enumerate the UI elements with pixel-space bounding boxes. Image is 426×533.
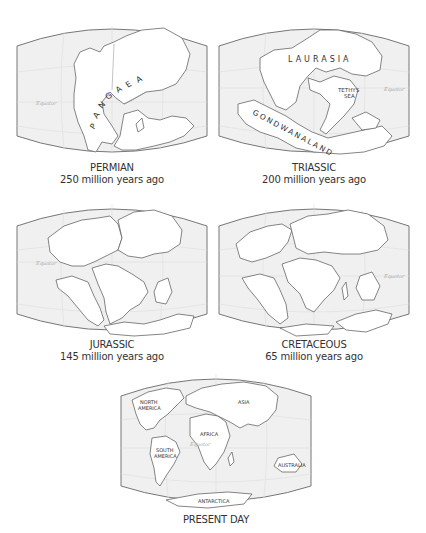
south-america-label-line2: AMERICA [154, 453, 177, 459]
era-label: PERMIAN [14, 162, 210, 174]
map-triassic: Equator LAURASIA TETHYS SEA GONDWANALAND [216, 18, 412, 160]
age-label: 145 million years ago [14, 351, 210, 363]
equator-label: Equator [383, 273, 405, 280]
jurassic-map-graphic: Equator [14, 196, 210, 338]
australia-label: AUSTRALIA [278, 462, 306, 468]
north-america-label-line2: AMERICA [138, 405, 161, 411]
caption-permian: PERMIAN 250 million years ago [14, 162, 210, 186]
map-present-day: Equator NORTH AMERICA SOUTH AMERICA AFRI… [118, 366, 314, 510]
tethys-sea-label-line2: SEA [344, 93, 355, 99]
age-label: 65 million years ago [216, 351, 412, 363]
map-permian: Equator P A N G A E A [14, 18, 210, 160]
era-label: CRETACEOUS [216, 339, 412, 351]
caption-jurassic: JURASSIC 145 million years ago [14, 339, 210, 363]
map-jurassic: Equator [14, 196, 210, 338]
laurasia-label: LAURASIA [288, 55, 352, 64]
caption-triassic: TRIASSIC 200 million years ago [216, 162, 412, 186]
africa-label: AFRICA [200, 431, 219, 437]
equator-label: Equator [35, 260, 57, 267]
age-label: 200 million years ago [216, 174, 412, 186]
asia-label: ASIA [238, 399, 250, 405]
era-label: JURASSIC [14, 339, 210, 351]
antarctica-label: ANTARCTICA [198, 498, 230, 504]
equator-label: Equator [383, 86, 405, 93]
caption-present-day: PRESENT DAY [118, 514, 314, 526]
era-label: TRIASSIC [216, 162, 412, 174]
triassic-map-graphic: Equator LAURASIA TETHYS SEA GONDWANALAND [216, 18, 412, 160]
caption-cretaceous: CRETACEOUS 65 million years ago [216, 339, 412, 363]
age-label: 250 million years ago [14, 174, 210, 186]
map-cretaceous: Equator [216, 196, 412, 338]
present-day-map-graphic: Equator NORTH AMERICA SOUTH AMERICA AFRI… [118, 366, 314, 510]
equator-label: Equator [35, 100, 57, 107]
permian-map-graphic: Equator P A N G A E A [14, 18, 210, 160]
era-label: PRESENT DAY [118, 514, 314, 526]
equator-label: Equator [189, 441, 211, 448]
cretaceous-map-graphic: Equator [216, 196, 412, 338]
